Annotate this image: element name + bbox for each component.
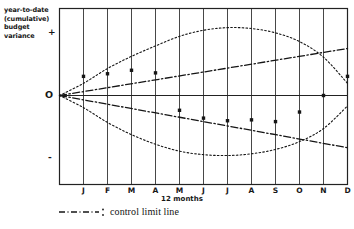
data-point-o-9 — [298, 110, 301, 113]
data-point-j-0 — [82, 75, 85, 78]
chart-legend: control limit line — [58, 206, 179, 217]
x-tick-9: O — [296, 186, 302, 195]
x-axis-title: 12 months — [0, 195, 354, 203]
gridlines — [84, 9, 348, 185]
x-tick-7: A — [249, 186, 255, 195]
data-point-a-3 — [154, 71, 157, 74]
data-point-d-11 — [346, 75, 349, 78]
data-point-a-7 — [250, 118, 253, 121]
chart-figure: year-to-date (cumulative) budget varianc… — [0, 0, 354, 229]
x-tick-11: D — [344, 186, 350, 195]
x-tick-2: M — [128, 186, 135, 195]
x-tick-1: F — [105, 186, 110, 195]
legend-label-control-limit: control limit line — [110, 206, 179, 217]
x-tick-5: J — [202, 186, 205, 195]
data-point-m-4 — [178, 109, 181, 112]
x-tick-8: S — [273, 186, 278, 195]
data-point-m-2 — [130, 69, 133, 72]
x-tick-0: J — [82, 186, 85, 195]
data-point-s-8 — [274, 120, 277, 123]
data-point-j-6 — [226, 119, 229, 122]
control-limit-line-swatch-icon — [58, 207, 106, 217]
x-tick-3: A — [153, 186, 159, 195]
data-point-j-5 — [202, 116, 205, 119]
x-tick-10: N — [320, 186, 326, 195]
data-point-f-1 — [106, 72, 109, 75]
x-tick-6: J — [226, 186, 229, 195]
data-point-n-10 — [322, 94, 325, 97]
x-tick-4: M — [176, 186, 183, 195]
x-axis-title-text: 12 months — [161, 195, 203, 203]
